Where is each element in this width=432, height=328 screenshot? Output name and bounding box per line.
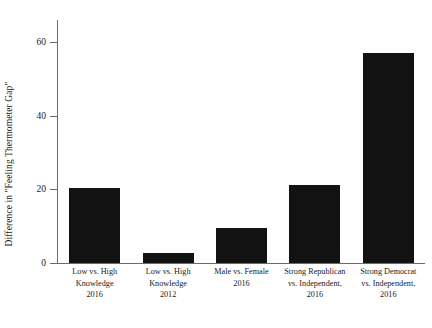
y-tick-label: 40 xyxy=(6,111,46,121)
x-axis-line xyxy=(57,263,425,264)
x-axis-label: Strong Democratvs. Independent,2016 xyxy=(346,266,431,301)
x-axis-label-line: Strong Democrat xyxy=(346,266,431,278)
bar xyxy=(69,188,120,263)
y-tick-mark xyxy=(50,116,58,117)
y-axis-title: Difference in "Feeling Thermometer Gap" xyxy=(0,0,18,328)
bar xyxy=(216,228,267,263)
y-tick-mark xyxy=(50,189,58,190)
x-axis-label-line: 2012 xyxy=(125,289,210,301)
y-tick-label: 60 xyxy=(6,37,46,47)
y-tick-label: 20 xyxy=(6,184,46,194)
y-tick-mark xyxy=(50,263,58,264)
y-tick-mark xyxy=(50,42,58,43)
bar xyxy=(143,253,194,263)
x-axis-label-line: 2016 xyxy=(346,289,431,301)
bar xyxy=(363,53,414,263)
y-tick-label: 0 xyxy=(6,258,46,268)
x-axis-label-line: vs. Independent, xyxy=(346,278,431,290)
x-axis-labels: Low vs. HighKnowledge2016Low vs. HighKno… xyxy=(58,266,425,326)
bar xyxy=(289,185,340,263)
chart-figure: Difference in "Feeling Thermometer Gap" … xyxy=(0,0,432,328)
bar-series xyxy=(58,20,425,263)
